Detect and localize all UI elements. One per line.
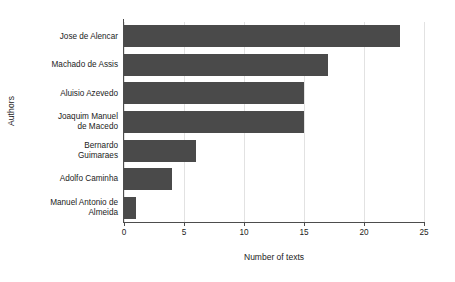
gridline (364, 22, 365, 222)
x-tick-mark (244, 222, 245, 226)
x-axis-line (123, 222, 425, 223)
y-axis-title: Authors (0, 0, 22, 222)
x-tick-label: 20 (349, 228, 379, 237)
category-label-line: Almeida (88, 208, 118, 218)
category-label: Adolfo Caminha (22, 165, 118, 194)
category-label-line: Aluisio Azevedo (60, 89, 118, 99)
gridline (424, 22, 425, 222)
plot-area (124, 22, 424, 222)
x-tick-mark (364, 222, 365, 226)
category-label: Aluisio Azevedo (22, 79, 118, 108)
category-axis-labels: Jose de AlencarMachado de AssisAluisio A… (22, 22, 122, 218)
category-label-line: Guimaraes (78, 151, 118, 161)
category-label-line: Jose de Alencar (60, 32, 118, 42)
x-tick-label: 10 (229, 228, 259, 237)
x-tick-label: 0 (109, 228, 139, 237)
category-label-line: Manuel Antonio de (50, 198, 118, 208)
bar-chart: Authors Jose de AlencarMachado de AssisA… (0, 0, 455, 282)
x-tick-label: 15 (289, 228, 319, 237)
bar (124, 111, 304, 133)
bar (124, 168, 172, 190)
bar (124, 197, 136, 219)
category-label: Jose de Alencar (22, 22, 118, 51)
x-tick-mark (304, 222, 305, 226)
category-label: Joaquim Manuelde Macedo (22, 108, 118, 137)
x-tick-mark (184, 222, 185, 226)
category-label-line: de Macedo (77, 122, 118, 132)
x-tick-label: 5 (169, 228, 199, 237)
bar (124, 82, 304, 104)
bar (124, 25, 400, 47)
category-label: BernardoGuimaraes (22, 136, 118, 165)
category-label: Manuel Antonio deAlmeida (22, 193, 118, 222)
x-axis-title: Number of texts (124, 252, 424, 262)
x-tick-label: 25 (409, 228, 439, 237)
x-tick-mark (124, 222, 125, 226)
category-label-line: Adolfo Caminha (60, 174, 118, 184)
category-label-line: Joaquim Manuel (58, 112, 118, 122)
bar (124, 54, 328, 76)
y-axis-title-text: Authors (6, 96, 16, 126)
category-label-line: Machado de Assis (52, 60, 118, 70)
gridline (304, 22, 305, 222)
bar (124, 140, 196, 162)
category-label-line: Bernardo (84, 141, 118, 151)
y-axis-line (123, 19, 124, 223)
category-label: Machado de Assis (22, 51, 118, 80)
x-tick-mark (424, 222, 425, 226)
